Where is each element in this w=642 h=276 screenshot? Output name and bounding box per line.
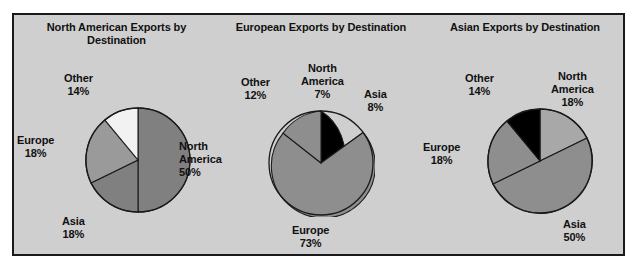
pie-graphic-0 <box>84 106 192 214</box>
pie-chart-european-exports: European Exports by Destination North <box>219 15 423 254</box>
pie-label-0-asia-name: Asia <box>62 215 85 227</box>
pie-chart-asian-exports: Asian Exports by Destination North Am <box>423 15 627 254</box>
pie-label-2-asia: Asia 50% <box>563 218 586 244</box>
pie-label-0-other-pct: 14% <box>64 85 93 98</box>
pie-label-0-other-name: Other <box>64 72 93 84</box>
pie-label-0-europe-pct: 18% <box>17 147 54 160</box>
chart-title-0-line-1: North American Exports by <box>47 21 187 33</box>
pie-label-1-north-america: North America 7% <box>301 62 344 101</box>
pie-label-2-asia-pct: 50% <box>563 231 586 244</box>
pie-label-1-other-name: Other <box>241 76 270 88</box>
chart-title-1-line-1: European Exports by Destination <box>236 21 406 33</box>
pie-label-1-europe-pct: 73% <box>292 237 329 250</box>
chart-title-0-line-2: Destination <box>87 34 146 46</box>
chart-panel: North American Exports by Destination <box>12 13 625 256</box>
pie-label-2-europe-pct: 18% <box>423 154 460 167</box>
chart-title-0: North American Exports by Destination <box>14 21 219 47</box>
chart-title-2: Asian Exports by Destination <box>423 21 627 34</box>
pie-label-2-north-america: North America 18% <box>551 70 594 109</box>
pie-label-1-asia-pct: 8% <box>364 101 387 114</box>
pie-label-1-other: Other 12% <box>241 76 270 102</box>
chart-title-1: European Exports by Destination <box>219 21 423 34</box>
pie-label-1-asia: Asia 8% <box>364 88 387 114</box>
pie-label-2-europe-name: Europe <box>423 141 460 153</box>
pie-label-0-europe-name: Europe <box>17 134 54 146</box>
pie-label-0-asia-pct: 18% <box>62 228 85 241</box>
pie-label-2-asia-name: Asia <box>563 218 586 230</box>
pie-label-2-north-america-line-1: North <box>558 70 587 82</box>
pie-label-2-north-america-pct: 18% <box>551 96 594 109</box>
pie-graphic-2 <box>486 107 594 215</box>
pie-label-0-north-america-pct: 50% <box>179 166 222 179</box>
pie-label-2-other-name: Other <box>465 72 494 84</box>
pie-label-0-north-america: North America 50% <box>179 140 222 179</box>
pie-label-1-north-america-line-1: North <box>308 62 337 74</box>
pie-label-2-north-america-line-2: America <box>551 83 594 95</box>
pie-label-1-other-pct: 12% <box>241 89 270 102</box>
pie-svg-1 <box>267 109 375 217</box>
pie-label-1-europe: Europe 73% <box>292 224 329 250</box>
pie-svg-2 <box>486 107 594 215</box>
pie-label-1-europe-name: Europe <box>292 224 329 236</box>
pie-label-0-north-america-line-1: North <box>179 140 208 152</box>
pie-label-1-asia-name: Asia <box>364 88 387 100</box>
pie-chart-north-american-exports: North American Exports by Destination <box>14 15 219 254</box>
pie-label-0-north-america-line-2: America <box>179 153 222 165</box>
pie-label-2-europe: Europe 18% <box>423 141 460 167</box>
figure-canvas: North American Exports by Destination <box>0 0 642 276</box>
pie-label-0-europe: Europe 18% <box>17 134 54 160</box>
pie-graphic-1 <box>267 109 375 217</box>
chart-title-2-line-1: Asian Exports by Destination <box>450 21 600 33</box>
pie-label-1-north-america-line-2: America <box>301 75 344 87</box>
pie-label-0-other: Other 14% <box>64 72 93 98</box>
pie-label-1-north-america-pct: 7% <box>301 88 344 101</box>
pie-label-2-other: Other 14% <box>465 72 494 98</box>
pie-label-2-other-pct: 14% <box>465 85 494 98</box>
pie-svg-0 <box>84 106 192 214</box>
pie-label-0-asia: Asia 18% <box>62 215 85 241</box>
